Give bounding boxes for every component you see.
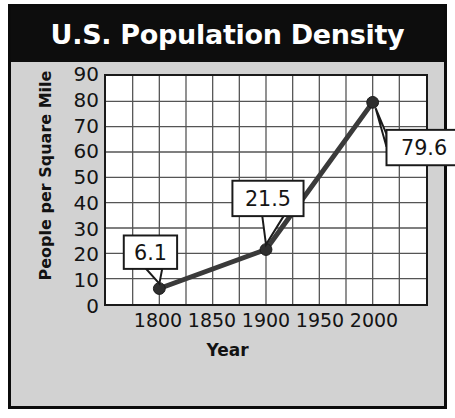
chart-body: People per Square Mile 01020304050607080… bbox=[11, 62, 444, 406]
y-axis-tick-labels: 0102030405060708090 bbox=[57, 74, 99, 306]
y-tick-label: 50 bbox=[57, 167, 99, 187]
y-tick-label: 0 bbox=[57, 296, 99, 316]
chart-figure: U.S. Population Density People per Squar… bbox=[8, 4, 447, 409]
data-point-marker bbox=[367, 96, 379, 108]
callout-pointer bbox=[146, 269, 162, 284]
x-axis-tick-labels: 18001850190019502000 bbox=[104, 311, 428, 337]
y-tick-label: 80 bbox=[57, 90, 99, 110]
y-tick-label: 70 bbox=[57, 116, 99, 136]
callout-label: 79.6 bbox=[401, 136, 447, 160]
callout-pointer bbox=[376, 108, 387, 147]
data-callouts: 6.121.579.6 bbox=[124, 108, 455, 283]
y-tick-label: 60 bbox=[57, 141, 99, 161]
y-axis-title: People per Square Mile bbox=[36, 71, 55, 281]
x-axis-title: Year bbox=[11, 340, 444, 360]
y-tick-label: 30 bbox=[57, 219, 99, 239]
plot-area: 6.121.579.6 bbox=[104, 74, 428, 306]
chart-title: U.S. Population Density bbox=[51, 19, 405, 50]
title-banner: U.S. Population Density bbox=[11, 7, 444, 62]
y-tick-label: 90 bbox=[57, 64, 99, 84]
y-tick-label: 40 bbox=[57, 193, 99, 213]
y-tick-label: 20 bbox=[57, 244, 99, 264]
callout-label: 6.1 bbox=[134, 241, 167, 265]
x-tick-label: 2000 bbox=[339, 311, 409, 330]
y-tick-label: 10 bbox=[57, 270, 99, 290]
callout-label: 21.5 bbox=[245, 187, 291, 211]
plot-svg: 6.121.579.6 bbox=[106, 76, 426, 304]
